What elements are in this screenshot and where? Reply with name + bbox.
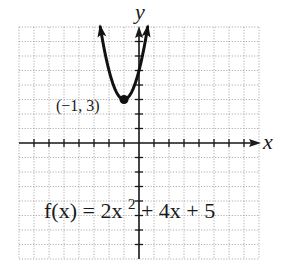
x-axis-label: x [262,129,273,154]
function-equation-label: f(x) = 2x 2 + 4x + 5 [44,189,215,223]
equation-prefix: f(x) = 2x [44,198,122,223]
equation-exponent: 2 [128,196,136,212]
vertex-label: (−1, 3) [56,97,100,115]
vertex-point [120,95,129,104]
parabola-graph: (−1, 3) x y f(x) = 2x 2 + 4x + 5 [0,0,283,268]
equation-suffix: + 4x + 5 [141,198,215,223]
y-axis-label: y [133,0,145,24]
